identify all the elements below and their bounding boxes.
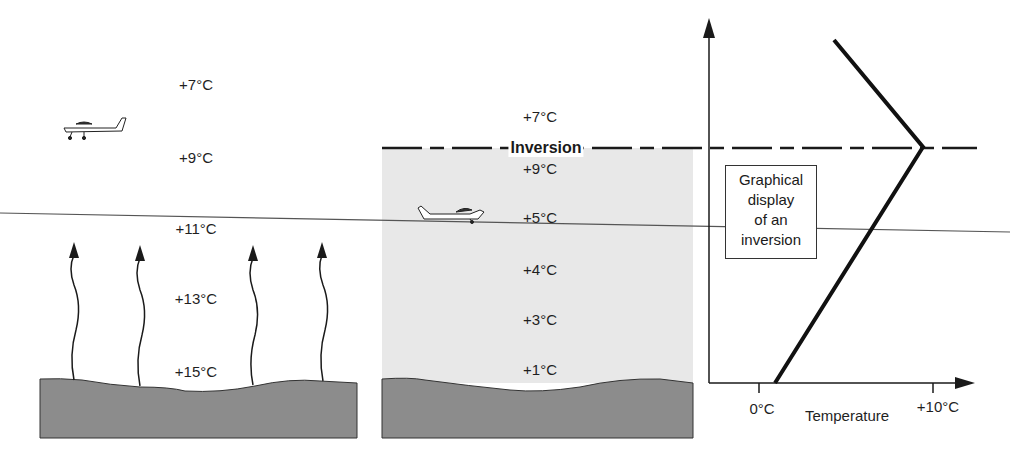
x-tick-label-0c: 0°C xyxy=(749,400,774,417)
middle-temp-1: +1°C xyxy=(523,361,557,378)
left-ground xyxy=(40,379,357,438)
left-temp-15: +15°C xyxy=(175,363,217,380)
airplane-icon-left xyxy=(64,118,126,140)
note-line: of an xyxy=(726,210,816,230)
inversion-label: Inversion xyxy=(508,139,583,157)
middle-temp-above-inversion: +7°C xyxy=(523,108,557,125)
diagram-canvas xyxy=(0,0,1010,453)
middle-ground xyxy=(382,378,693,438)
x-axis-label: Temperature xyxy=(805,407,889,424)
middle-temp-5: +5°C xyxy=(523,209,557,226)
note-line: Graphical xyxy=(726,170,816,190)
middle-temp-4: +4°C xyxy=(523,261,557,278)
left-temp-13: +13°C xyxy=(175,290,217,307)
note-line: inversion xyxy=(726,230,816,250)
left-temp-11: +11°C xyxy=(175,220,216,237)
arrow-heads xyxy=(69,242,327,261)
x-axis-arrow-icon xyxy=(955,377,975,389)
middle-temp-9: +9°C xyxy=(523,160,557,177)
left-temp-7: +7°C xyxy=(179,76,213,93)
middle-temp-3: +3°C xyxy=(523,311,557,328)
graph-note-box: Graphical display of an inversion xyxy=(725,165,817,259)
x-tick-label-10c: +10°C xyxy=(917,398,959,415)
y-axis-arrow-icon xyxy=(703,18,715,38)
left-temp-9: +9°C xyxy=(179,149,213,166)
note-line: display xyxy=(726,190,816,210)
